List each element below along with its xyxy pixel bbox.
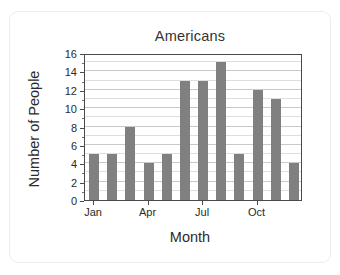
x-tick-label: Jan [84,206,102,218]
x-tick-mark [257,201,258,205]
y-tick-label: 0 [71,195,77,207]
y-tick-label: 10 [65,103,77,115]
y-tick-label: 14 [65,66,77,78]
x-tick-mark [93,201,94,205]
chart-title: Americans [70,28,310,44]
bar-sep [234,154,244,200]
bar-nov [271,99,281,200]
x-tick-label: Jul [195,206,209,218]
y-tick-label: 2 [71,177,77,189]
y-tick-label: 12 [65,85,77,97]
plot-area [84,54,302,201]
y-tick-label: 6 [71,140,77,152]
x-tick-label: Oct [248,206,265,218]
bar-may [162,154,172,200]
bar-dec [289,163,299,200]
x-tick-mark [202,201,203,205]
bar-series [85,55,301,200]
bar-chart-figure: Americans Number of People Month 0246810… [0,0,340,275]
y-tick-label: 4 [71,158,77,170]
y-tick-label: 8 [71,122,77,134]
bar-apr [144,163,154,200]
bar-mar [125,127,135,201]
y-axis-ticks: 0246810121416 [0,54,84,201]
x-tick-label: Apr [139,206,156,218]
y-tick-label: 16 [65,48,77,60]
x-axis-title: Month [85,229,295,245]
bar-feb [107,154,117,200]
bar-aug [216,62,226,200]
x-axis-ticks: JanAprJulOct [84,201,302,227]
bar-oct [253,90,263,200]
bar-jun [180,81,190,200]
bar-jan [89,154,99,200]
bar-jul [198,81,208,200]
x-tick-mark [148,201,149,205]
